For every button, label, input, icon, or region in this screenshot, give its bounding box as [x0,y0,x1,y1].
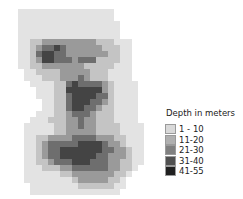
depth-raster-map [18,9,150,193]
legend-label: 41-55 [179,166,204,176]
legend-swatch [165,135,176,145]
legend: Depth in meters 1 - 10 11-20 21-30 31-40… [165,108,243,177]
legend-swatch [165,124,176,134]
legend-label: 31-40 [179,156,204,166]
raster-cell [126,171,132,177]
legend-item-4: 31-40 [165,156,243,167]
legend-swatch [165,156,176,166]
legend-swatch [165,145,176,155]
legend-item-2: 11-20 [165,135,243,146]
raster-cell [114,189,120,195]
legend-label: 11-20 [179,135,204,145]
legend-title: Depth in meters [166,108,243,118]
raster-cell [132,165,138,171]
legend-item-1: 1 - 10 [165,124,243,135]
legend-swatch [165,166,176,176]
legend-label: 1 - 10 [179,124,204,134]
legend-label: 21-30 [179,145,204,155]
legend-item-3: 21-30 [165,145,243,156]
raster-cell [138,159,144,165]
raster-cell [120,183,126,189]
legend-item-5: 41-55 [165,166,243,177]
